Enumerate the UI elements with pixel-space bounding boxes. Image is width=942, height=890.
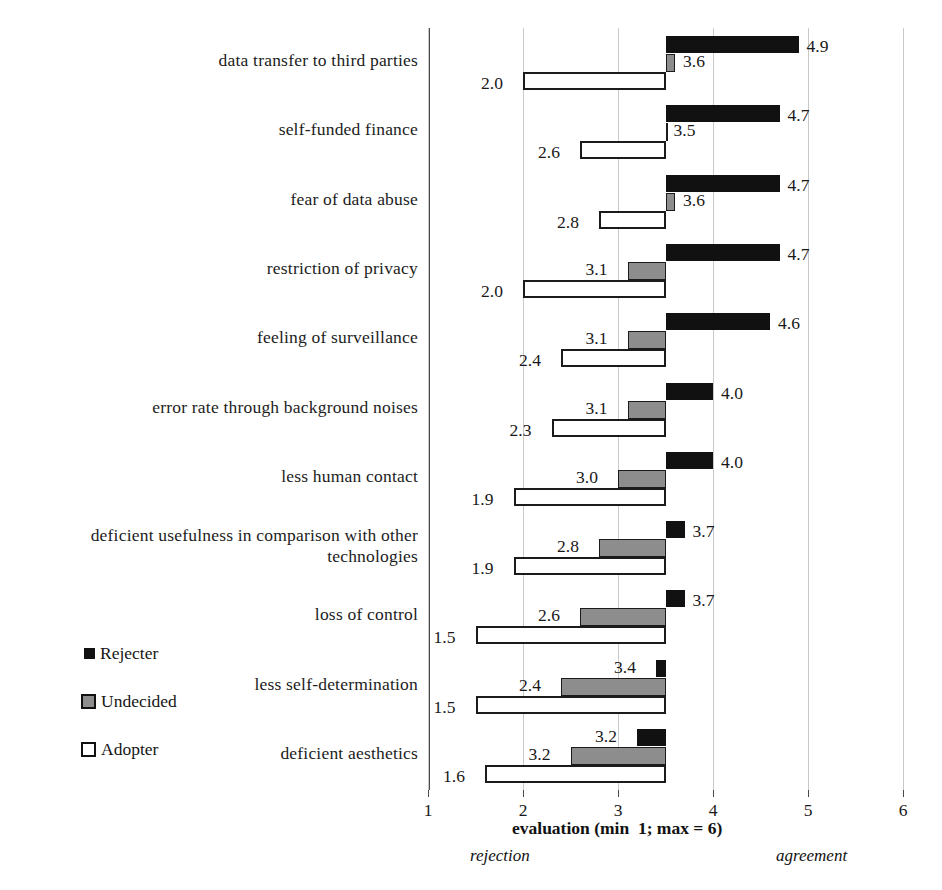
bar-value-label: 3.7: [693, 522, 715, 540]
bar-value-label: 3.4: [614, 658, 636, 676]
bar-rejecter: [666, 383, 714, 400]
category-label: fear of data abuse: [18, 189, 418, 210]
bar-value-label: 3.7: [693, 591, 715, 609]
bar-rejecter: [666, 590, 685, 607]
category-label: self-funded finance: [18, 119, 418, 140]
bar-value-label: 2.0: [481, 74, 503, 92]
bar-value-label: 2.8: [557, 537, 579, 555]
bar-undecided: [628, 262, 666, 280]
bar-value-label: 4.7: [788, 176, 810, 194]
bar-value-label: 1.5: [434, 698, 456, 716]
bar-undecided: [666, 193, 676, 211]
category-label: error rate through background noises: [18, 397, 418, 418]
bar-value-label: 3.1: [586, 399, 608, 417]
bar-adopter: [514, 557, 666, 575]
category-label: feeling of surveillance: [18, 327, 418, 348]
bar-rejecter: [656, 660, 666, 677]
category-label: data transfer to third parties: [18, 50, 418, 71]
bar-undecided: [666, 123, 668, 141]
legend-item-undecided[interactable]: Undecided: [81, 691, 177, 715]
legend-swatch-undecided-icon: [81, 694, 96, 709]
bar-value-label: 2.6: [538, 606, 560, 624]
x-axis-high-anchor-label: agreement: [776, 846, 847, 866]
bar-value-label: 1.9: [472, 559, 494, 577]
chart-row: self-funded finance4.73.52.6: [0, 97, 942, 166]
x-tick-mark-1: [428, 790, 429, 797]
category-label: deficient aesthetics: [18, 743, 418, 764]
chart-row: feeling of surveillance4.63.12.4: [0, 305, 942, 374]
bar-value-label: 2.8: [557, 213, 579, 231]
x-tick-mark-2: [523, 790, 524, 797]
bar-value-label: 2.4: [519, 676, 541, 694]
legend-label-undecided: Undecided: [101, 691, 177, 712]
category-label: less self-determination: [18, 674, 418, 695]
bar-undecided: [599, 539, 666, 557]
chart-row: fear of data abuse4.73.62.8: [0, 167, 942, 236]
bar-value-label: 4.9: [807, 37, 829, 55]
bar-rejecter: [666, 244, 780, 261]
x-tick-mark-3: [618, 790, 619, 797]
bar-undecided: [618, 470, 666, 488]
x-tick-mark-5: [808, 790, 809, 797]
bar-value-label: 3.2: [529, 745, 551, 763]
bar-adopter: [523, 280, 666, 298]
bar-value-label: 3.2: [595, 727, 617, 745]
bar-value-label: 1.5: [434, 628, 456, 646]
bar-adopter: [580, 141, 666, 159]
bar-value-label: 3.5: [674, 121, 696, 139]
bar-undecided: [666, 54, 676, 72]
bar-value-label: 2.6: [538, 143, 560, 161]
legend-swatch-adopter-icon: [81, 742, 96, 757]
bar-adopter: [599, 211, 666, 229]
bar-rejecter: [637, 729, 666, 746]
bar-undecided: [628, 331, 666, 349]
bar-value-label: 3.6: [683, 52, 705, 70]
bar-undecided: [561, 678, 666, 696]
legend-item-rejecter[interactable]: Rejecter: [84, 643, 158, 667]
x-tick-mark-4: [713, 790, 714, 797]
chart-row: restriction of privacy4.73.12.0: [0, 236, 942, 305]
x-tick-label-6: 6: [899, 800, 908, 821]
legend-label-adopter: Adopter: [101, 739, 158, 760]
bar-rejecter: [666, 452, 714, 469]
bar-value-label: 4.7: [788, 106, 810, 124]
bar-value-label: 4.6: [778, 314, 800, 332]
chart-row: error rate through background noises4.03…: [0, 375, 942, 444]
bar-value-label: 1.9: [472, 490, 494, 508]
bar-value-label: 2.4: [519, 351, 541, 369]
category-label: deficient usefulness in comparison with …: [18, 525, 418, 567]
x-axis-low-anchor-label: rejection: [470, 846, 530, 866]
category-label: restriction of privacy: [18, 258, 418, 279]
bar-value-label: 2.3: [510, 421, 532, 439]
x-tick-mark-6: [903, 790, 904, 797]
legend-item-adopter[interactable]: Adopter: [81, 739, 158, 763]
legend-label-rejecter: Rejecter: [100, 643, 158, 664]
bar-adopter: [476, 696, 666, 714]
x-axis-title: evaluation (min 1; max = 6): [512, 818, 722, 839]
bar-adopter: [485, 765, 666, 783]
bar-value-label: 2.0: [481, 282, 503, 300]
chart-row: loss of control3.72.61.5: [0, 582, 942, 651]
horizontal-bar-chart: data transfer to third parties4.93.62.0s…: [0, 0, 942, 890]
chart-row: data transfer to third parties4.93.62.0: [0, 28, 942, 97]
bar-rejecter: [666, 313, 771, 330]
bar-adopter: [552, 419, 666, 437]
bar-value-label: 3.1: [586, 260, 608, 278]
bar-value-label: 3.6: [683, 191, 705, 209]
category-label: less human contact: [18, 466, 418, 487]
bar-adopter: [561, 349, 666, 367]
chart-row: less human contact4.03.01.9: [0, 444, 942, 513]
bar-value-label: 3.0: [576, 468, 598, 486]
x-tick-label-1: 1: [424, 800, 433, 821]
bar-value-label: 4.0: [721, 384, 743, 402]
bar-adopter: [514, 488, 666, 506]
bar-adopter: [476, 626, 666, 644]
bar-value-label: 4.7: [788, 245, 810, 263]
bar-value-label: 1.6: [443, 767, 465, 785]
chart-row: deficient usefulness in comparison with …: [0, 513, 942, 582]
bar-undecided: [571, 747, 666, 765]
bar-value-label: 4.0: [721, 453, 743, 471]
legend-swatch-rejecter-icon: [84, 648, 95, 659]
bar-value-label: 3.1: [586, 329, 608, 347]
bar-adopter: [523, 72, 666, 90]
